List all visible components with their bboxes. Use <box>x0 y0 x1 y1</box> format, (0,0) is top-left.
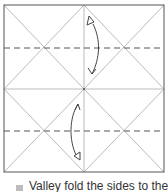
top-fold-arrow-icon <box>87 16 99 74</box>
fold-diagram <box>0 0 168 176</box>
instruction-text: Valley fold the sides to the <box>29 180 168 192</box>
center-point <box>83 88 85 90</box>
bottom-fold-arrow-icon <box>71 104 80 160</box>
bullet-icon <box>16 185 23 191</box>
instruction-caption: Valley fold the sides to the <box>16 180 168 192</box>
